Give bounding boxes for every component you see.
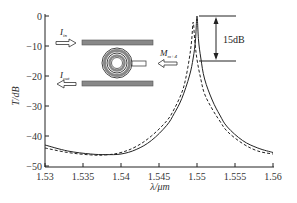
label-i-in: Iin bbox=[59, 27, 67, 38]
arrow-left-icon bbox=[158, 60, 177, 68]
arrow-right-icon bbox=[56, 39, 76, 47]
bus-waveguide-top bbox=[82, 40, 153, 45]
y-tick-label: −40 bbox=[26, 131, 42, 142]
arrow-down-icon bbox=[214, 53, 219, 60]
x-tick-label: 1.555 bbox=[224, 171, 247, 182]
bus-waveguide-bottom bbox=[82, 81, 153, 86]
x-tick-label: 1.53 bbox=[36, 171, 54, 182]
y-axis-ticks: 0−10−20−30−40−50 bbox=[26, 11, 49, 172]
arrow-up-icon bbox=[214, 17, 219, 24]
microring-inset: Iin Iout Mm+4 bbox=[56, 27, 177, 88]
y-axis-label: T/dB bbox=[10, 86, 21, 105]
x-tick-label: 1.54 bbox=[112, 171, 130, 182]
y-tick-label: −50 bbox=[26, 161, 42, 172]
double-ring-icon bbox=[102, 48, 132, 78]
annotation-15db: 15dB bbox=[223, 34, 245, 45]
label-i-out: Iout bbox=[59, 70, 70, 81]
y-tick-label: −20 bbox=[26, 71, 42, 82]
x-tick-label: 1.55 bbox=[188, 171, 206, 182]
arrow-left-icon bbox=[57, 80, 76, 88]
transmission-chart: 0−10−20−30−40−50 1.531.5351.541.5451.551… bbox=[0, 0, 297, 203]
x-axis-label: λ/μm bbox=[149, 181, 169, 192]
x-tick-label: 1.56 bbox=[264, 171, 282, 182]
dimension-annotation-15db: 15dB bbox=[199, 16, 245, 61]
stub-waveguide bbox=[132, 61, 146, 66]
x-tick-label: 1.535 bbox=[72, 171, 95, 182]
x-axis-ticks: 1.531.5351.541.5451.551.5551.56 bbox=[36, 163, 282, 182]
y-tick-label: −30 bbox=[26, 101, 42, 112]
label-m: Mm+4 bbox=[159, 48, 177, 59]
y-tick-label: −10 bbox=[26, 41, 42, 52]
y-tick-label: 0 bbox=[37, 11, 42, 22]
